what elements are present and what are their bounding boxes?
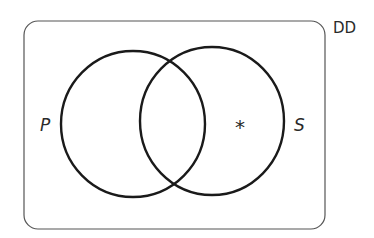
set-label-p: P <box>40 115 51 135</box>
universe-rectangle <box>24 21 325 229</box>
universe-label: DD <box>333 19 356 37</box>
set-label-s: S <box>294 115 305 135</box>
asterisk-mark: * <box>235 115 245 139</box>
set-circle-p <box>61 51 205 197</box>
set-circle-s <box>140 47 284 195</box>
venn-diagram: DD P S * <box>0 0 374 238</box>
